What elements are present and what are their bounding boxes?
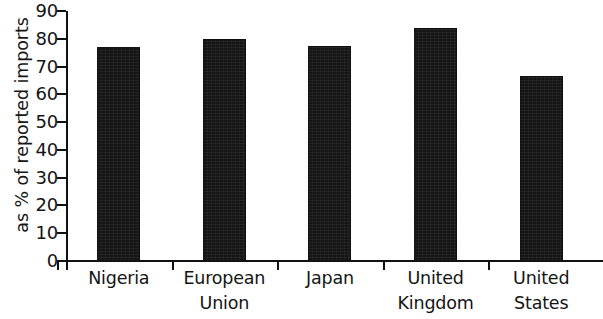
bar-slot (172, 11, 278, 261)
y-axis-tick-label: 80 (24, 30, 58, 48)
y-axis-tick-mark (57, 177, 66, 179)
y-axis-tick-mark (57, 149, 66, 151)
y-axis-tick-mark (57, 38, 66, 40)
x-axis-category-label: UnitedStates (488, 266, 594, 317)
plot-area (66, 11, 594, 261)
y-axis-tick-label: 40 (24, 141, 58, 159)
bar[interactable] (414, 28, 457, 261)
x-axis-category-label: Nigeria (66, 266, 172, 291)
bar-slot (383, 11, 489, 261)
y-axis-tick-label: 90 (24, 2, 58, 20)
x-axis-category-label-line: United (488, 266, 594, 291)
bar-slot (488, 11, 594, 261)
y-axis-tick-mark (57, 66, 66, 68)
x-axis-category-label: EuropeanUnion (172, 266, 278, 317)
x-axis-category-label-line: Japan (277, 266, 383, 291)
y-axis-tick-label: 30 (24, 169, 58, 187)
y-axis-tick-mark (57, 204, 66, 206)
y-axis-tick-label: 60 (24, 85, 58, 103)
bar[interactable] (308, 46, 351, 261)
y-axis-tick-label: 50 (24, 113, 58, 131)
x-axis-category-label-line: United (383, 266, 489, 291)
bar-slot (277, 11, 383, 261)
x-axis-category-label-line: Kingdom (383, 291, 489, 316)
y-axis-tick-mark (57, 232, 66, 234)
x-axis-category-label: UnitedKingdom (383, 266, 489, 317)
x-axis-category-label-line: Union (172, 291, 278, 316)
bar[interactable] (203, 39, 246, 261)
y-axis-tick-label: 20 (24, 196, 58, 214)
y-axis-tick-mark (57, 10, 66, 12)
y-axis-tick-labels: 9080706050403020100 (22, 0, 58, 319)
x-axis-category-labels: NigeriaEuropeanUnionJapanUnitedKingdomUn… (57, 266, 603, 319)
y-axis-tick-mark (57, 93, 66, 95)
x-axis-category-label-line: States (488, 291, 594, 316)
y-axis-tick-label: 10 (24, 224, 58, 242)
bar[interactable] (520, 76, 563, 261)
bar[interactable] (97, 47, 140, 261)
y-axis-tick-mark (57, 121, 66, 123)
bar-chart: as % of reported imports 908070605040302… (0, 0, 603, 319)
x-axis-category-label-line: European (172, 266, 278, 291)
bar-slot (66, 11, 172, 261)
x-axis-category-label: Japan (277, 266, 383, 291)
x-axis-category-label-line: Nigeria (66, 266, 172, 291)
y-axis-tick-label: 70 (24, 58, 58, 76)
